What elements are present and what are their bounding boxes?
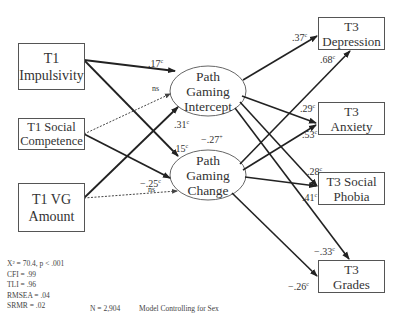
- outcome-social-phobia: T3 Social Phobia: [318, 172, 385, 205]
- fit-tli: TLI = .96: [7, 280, 64, 291]
- predictor-impulsivity-line2: Impulsivity: [19, 67, 84, 84]
- coef-change-social-phobia: .41c: [302, 190, 317, 203]
- coef-value: .68: [320, 54, 333, 65]
- coef-value: −.26: [288, 281, 306, 292]
- coef-change-grades: −.26c: [288, 279, 309, 292]
- coef-impulsivity-intercept: .17c: [148, 56, 163, 69]
- outcome-grades-line2: Grades: [333, 277, 370, 292]
- latent-intercept: Path Gaming Intercept: [170, 66, 246, 116]
- coef-intercept-change-cov: −.27+: [201, 132, 223, 145]
- coef-sig: c: [158, 178, 161, 184]
- outcome-social-phobia-line2: Phobia: [333, 189, 369, 204]
- coef-vg-change: ns: [148, 185, 155, 195]
- predictor-social-competence-line2: Competence: [20, 134, 82, 148]
- coef-value: ns: [152, 84, 159, 93]
- coef-social-intercept: ns: [152, 84, 159, 94]
- coef-sig: c: [313, 103, 316, 109]
- coef-sig: c: [186, 143, 189, 149]
- outcome-grades-line1: T3: [344, 262, 358, 277]
- path-vg-intercept: [84, 107, 178, 198]
- coef-sig: c: [161, 58, 164, 64]
- coef-value: −.27: [201, 134, 219, 145]
- path-change-grades: [232, 193, 317, 276]
- coef-value: ns: [148, 185, 155, 194]
- coef-value: .28: [307, 166, 320, 177]
- outcome-anxiety-line1: T3: [344, 104, 358, 119]
- coef-sig: c: [333, 54, 336, 60]
- outcome-social-phobia-line1: T3 Social: [326, 174, 376, 189]
- coef-sig: c: [187, 119, 190, 125]
- path-vg-change: [84, 191, 177, 198]
- coef-value: .29: [300, 103, 313, 114]
- coef-intercept-grades: −.33c: [314, 244, 335, 257]
- predictor-social-competence: T1 Social Competence: [18, 118, 85, 150]
- coef-value: .15: [173, 143, 186, 154]
- coef-change-anxiety: .53c: [302, 127, 317, 140]
- latent-change-line3: Change: [187, 183, 228, 198]
- coef-value: .17: [148, 58, 161, 69]
- coef-intercept-depression: .37c: [292, 30, 307, 43]
- predictor-impulsivity: T1 Impulsivity: [18, 43, 85, 90]
- outcome-depression-line2: Depression: [322, 34, 381, 49]
- outcome-anxiety: T3 Anxiety: [318, 102, 385, 135]
- coef-value: .31: [174, 119, 187, 130]
- coef-change-depression: .68c: [320, 52, 335, 65]
- coef-sig: c: [315, 192, 318, 198]
- coef-sig: c: [320, 166, 323, 172]
- coef-value: .53: [302, 129, 315, 140]
- latent-change: Path Gaming Change: [170, 150, 246, 200]
- coef-sig: +: [219, 134, 222, 140]
- coef-value: .37: [292, 32, 305, 43]
- latent-intercept-line3: Intercept: [184, 99, 232, 114]
- coef-sig: c: [332, 246, 335, 252]
- latent-change-line2: Gaming: [186, 168, 230, 183]
- predictor-social-competence-line1: T1 Social: [27, 120, 75, 134]
- fit-statistics: X² = 70.4, p < .001 CFI = .99 TLI = .96 …: [7, 259, 64, 312]
- coef-intercept-anxiety: .29c: [300, 101, 315, 114]
- path-change-social-phobia: [245, 177, 316, 186]
- model-note: Model Controlling for Sex: [139, 304, 219, 313]
- coef-sig: c: [315, 129, 318, 135]
- outcome-grades: T3 Grades: [318, 260, 385, 293]
- outcome-depression: T3 Depression: [318, 17, 385, 50]
- coef-impulsivity-change: .15c: [173, 141, 188, 154]
- coef-value: −.33: [314, 246, 332, 257]
- fit-cfi: CFI = .99: [7, 270, 64, 281]
- fit-srmr: SRMR = .02: [7, 301, 64, 312]
- predictor-vg-amount-line2: Amount: [29, 208, 75, 225]
- predictor-vg-amount: T1 VG Amount: [18, 183, 85, 232]
- path-intercept-social-phobia: [240, 102, 317, 186]
- outcome-depression-line1: T3: [344, 19, 358, 34]
- latent-intercept-line2: Gaming: [186, 84, 230, 99]
- coef-vg-intercept: .31c: [174, 117, 189, 130]
- fit-chi-square: X² = 70.4, p < .001: [7, 259, 64, 270]
- sample-size: N = 2,904: [90, 304, 120, 313]
- coef-intercept-social-phobia: .28c: [307, 164, 322, 177]
- predictor-impulsivity-line1: T1: [44, 50, 60, 67]
- predictor-vg-amount-line1: T1 VG: [32, 191, 71, 208]
- coef-value: .41: [302, 192, 315, 203]
- latent-change-line1: Path: [196, 153, 220, 168]
- coef-sig: c: [305, 32, 308, 38]
- path-social-change: [84, 134, 170, 178]
- outcome-anxiety-line2: Anxiety: [331, 119, 373, 134]
- fit-rmsea: RMSEA = .04: [7, 291, 64, 302]
- latent-intercept-line1: Path: [196, 69, 220, 84]
- coef-sig: c: [306, 281, 309, 287]
